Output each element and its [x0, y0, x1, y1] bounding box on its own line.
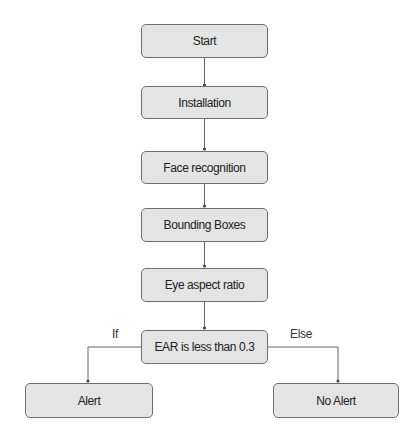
node-installation: Installation	[141, 86, 268, 119]
node-no-alert-label: No Alert	[316, 394, 356, 408]
node-decision-label: EAR is less than 0.3	[154, 340, 254, 354]
node-decision: EAR is less than 0.3	[141, 330, 268, 364]
node-bounding-boxes-label: Bounding Boxes	[164, 218, 246, 232]
node-start: Start	[141, 24, 268, 58]
node-no-alert: No Alert	[273, 383, 399, 418]
node-eye-aspect-ratio-label: Eye aspect ratio	[165, 278, 245, 292]
node-installation-label: Installation	[178, 96, 231, 110]
node-face-recognition: Face recognition	[141, 151, 268, 184]
edge-label-if: If	[112, 327, 118, 341]
edge-label-else: Else	[290, 327, 312, 341]
node-alert: Alert	[25, 383, 153, 418]
node-bounding-boxes: Bounding Boxes	[141, 208, 268, 242]
node-alert-label: Alert	[78, 394, 101, 408]
node-eye-aspect-ratio: Eye aspect ratio	[141, 268, 268, 302]
node-face-recognition-label: Face recognition	[163, 161, 245, 175]
node-start-label: Start	[193, 34, 216, 48]
